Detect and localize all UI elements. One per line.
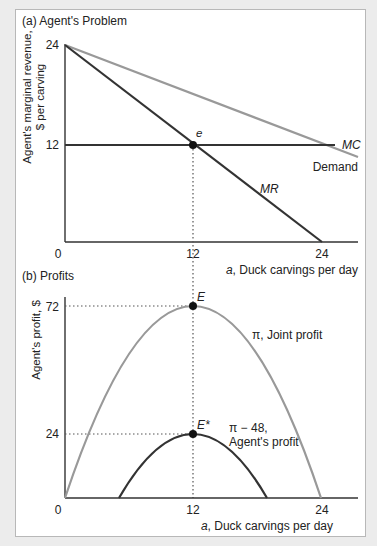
label-demand: Demand bbox=[313, 160, 358, 174]
panel-b-title: (b) Profits bbox=[22, 269, 74, 283]
panel-a-ytick-24: 24 bbox=[46, 38, 60, 52]
svg-text:Agent's marginal revenue,: Agent's marginal revenue, bbox=[21, 30, 33, 163]
label-joint-profit: π, Joint profit bbox=[252, 328, 323, 342]
panel-a-ytick-12: 12 bbox=[46, 138, 60, 152]
panel-a-title: (a) Agent's Problem bbox=[22, 14, 127, 28]
panel-b-ytick-24: 24 bbox=[46, 427, 60, 441]
svg-text:Agent's profit, $: Agent's profit, $ bbox=[30, 300, 42, 380]
label-Estar: E* bbox=[197, 418, 210, 432]
point-Estar bbox=[189, 430, 197, 438]
panel-a-xtick-0: 0 bbox=[55, 247, 62, 261]
panel-b-ytick-72: 72 bbox=[46, 300, 60, 314]
point-E bbox=[189, 302, 197, 310]
demand-line bbox=[65, 45, 358, 157]
label-agent-profit-2: Agent's profit bbox=[229, 435, 299, 449]
panel-b-ylabel: Agent's profit, $ bbox=[30, 300, 42, 380]
panel-a-xtick-24: 24 bbox=[315, 247, 329, 261]
panel-a-xlabel: a, Duck carvings per day bbox=[226, 263, 358, 277]
panel-b-xlabel: a, Duck carvings per day bbox=[201, 519, 333, 533]
label-e: e bbox=[196, 127, 202, 139]
figure-svg: (a) Agent's Problem Agent's marginal rev… bbox=[0, 0, 377, 546]
label-agent-profit-1: π − 48, bbox=[229, 421, 268, 435]
panel-b-xtick-24: 24 bbox=[315, 503, 329, 517]
point-e bbox=[189, 141, 197, 149]
label-E: E bbox=[197, 290, 206, 304]
panel-a-ylabel: Agent's marginal revenue, $ per carving bbox=[21, 30, 46, 163]
panel-b-xtick-12: 12 bbox=[186, 503, 200, 517]
label-mr: MR bbox=[260, 182, 279, 196]
panel-b-xtick-0: 0 bbox=[55, 503, 62, 517]
svg-text:$ per carving: $ per carving bbox=[34, 64, 46, 130]
label-mc: MC bbox=[342, 138, 361, 152]
